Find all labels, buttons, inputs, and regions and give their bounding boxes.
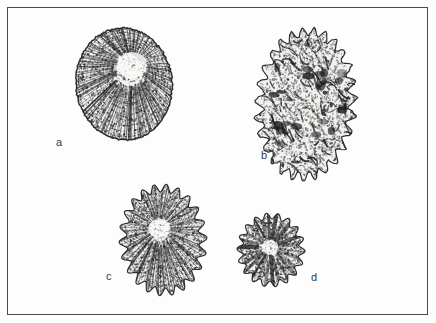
specimen-label-c: c: [106, 271, 112, 282]
specimen-label-a: a: [56, 137, 62, 148]
figure-plate: abcd: [0, 0, 436, 323]
specimen-a: [69, 22, 179, 146]
specimen-label-b: b: [261, 150, 267, 161]
specimen-illustration-canvas: [0, 0, 436, 323]
specimen-label-d: d: [311, 272, 317, 283]
specimen-c: [116, 181, 211, 298]
specimen-d: [236, 212, 307, 288]
